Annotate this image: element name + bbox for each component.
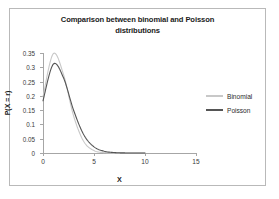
legend-item[interactable]: Binomial — [206, 89, 252, 103]
x-axis-title: X — [43, 175, 196, 184]
x-tick — [196, 153, 197, 156]
y-tick-label: 0.2 — [26, 92, 35, 99]
x-tick-label: 5 — [92, 158, 96, 165]
chart-legend: BinomialPoisson — [206, 89, 252, 117]
series-line-binomial — [43, 53, 145, 153]
y-tick-label: 0.35 — [23, 50, 35, 57]
y-tick-label: 0.3 — [26, 64, 35, 71]
series-curves — [43, 53, 196, 153]
plot-area: 00.050.10.150.20.250.30.35 051015 P(X = … — [43, 53, 196, 153]
legend-label: Poisson — [227, 107, 250, 114]
legend-item[interactable]: Poisson — [206, 103, 252, 117]
series-line-poisson — [43, 63, 145, 153]
x-tick — [94, 153, 95, 156]
y-tick-label: 0.25 — [23, 78, 35, 85]
y-tick-label: 0.1 — [26, 121, 35, 128]
chart-title-line-2: distributions — [30, 26, 245, 37]
y-tick-label: 0 — [31, 150, 35, 157]
chart-frame: Comparison between binomial and Poisson … — [9, 8, 266, 186]
legend-label: Binomial — [227, 93, 252, 100]
legend-swatch — [206, 95, 223, 96]
y-axis-title: P(X = r) — [4, 91, 11, 116]
x-tick-label: 0 — [41, 158, 45, 165]
chart-title-line-1: Comparison between binomial and Poisson — [30, 15, 245, 26]
x-tick — [43, 153, 44, 156]
y-tick-label: 0.15 — [23, 107, 35, 114]
legend-swatch — [206, 109, 223, 110]
x-tick-label: 15 — [192, 158, 199, 165]
x-tick-label: 10 — [141, 158, 148, 165]
y-tick-label: 0.05 — [23, 135, 35, 142]
chart-title: Comparison between binomial and Poisson … — [30, 15, 245, 36]
